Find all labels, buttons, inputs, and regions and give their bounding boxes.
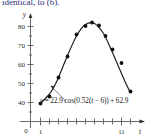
y-tick-label-70: 70: [18, 42, 26, 50]
data-point: [57, 76, 61, 80]
equation-minus: −: [95, 97, 99, 105]
data-point: [120, 61, 124, 65]
regression-curve: [41, 23, 131, 103]
y-axis-label: y: [22, 10, 27, 19]
equation-annotation: y=22.9cos(0.52(t−6))+62.9: [40, 97, 128, 106]
cosine-regression-chart: 80 70 60 50 40 y 0 1 11: [0, 0, 151, 139]
data-point: [129, 90, 133, 94]
x-axis-tick-labels: 0 1 11: [24, 127, 125, 136]
equation-phase: 6)): [100, 97, 108, 105]
equation-plus: +: [110, 97, 114, 105]
y-tick-label-50: 50: [18, 80, 26, 88]
data-point: [66, 55, 70, 59]
data-points: [39, 21, 133, 106]
equation-amplitude: 22.9: [50, 97, 63, 105]
data-point: [84, 24, 88, 28]
y-axis: [29, 13, 33, 128]
equation-equals: =: [45, 97, 49, 105]
y-tick-label-60: 60: [18, 61, 26, 69]
data-point: [97, 24, 101, 28]
data-point: [75, 33, 79, 37]
x-axis-label: t: [139, 127, 142, 136]
y-tick-label-40: 40: [18, 99, 26, 107]
y-axis-tick-labels: 80 70 60 50 40: [18, 23, 26, 107]
data-point: [111, 48, 115, 52]
x-tick-label-11: 11: [118, 128, 125, 136]
data-point: [104, 34, 108, 38]
equation-lhs: y: [40, 97, 43, 105]
x-axis: [20, 119, 145, 123]
y-tick-label-80: 80: [18, 23, 26, 31]
equation-variable: t: [91, 97, 93, 105]
data-point: [90, 21, 94, 25]
equation-function: cos(: [64, 97, 76, 105]
x-tick-label-1: 1: [39, 128, 43, 136]
figure-container: identical, to (6). 80: [0, 0, 151, 139]
origin-label: 0: [24, 127, 28, 135]
equation-vertical-shift: 62.9: [116, 97, 129, 105]
equation-frequency: 0.52(: [76, 97, 91, 105]
